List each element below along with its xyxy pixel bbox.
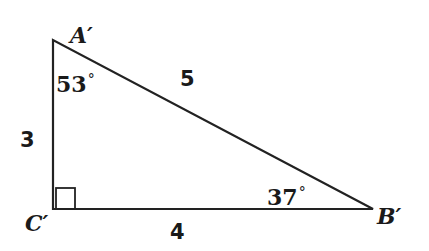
vertex-label-c: C′	[25, 212, 48, 234]
side-label-vertical: 3	[20, 130, 35, 151]
angle-a-value: 53	[56, 71, 87, 97]
degree-symbol: °	[299, 184, 306, 200]
triangle-svg	[0, 0, 429, 251]
angle-label-a: 53°	[56, 73, 95, 95]
side-label-hypotenuse: 5	[180, 69, 195, 90]
vertex-label-a: A′	[70, 24, 93, 46]
degree-symbol: °	[88, 71, 95, 87]
triangle-diagram: A′ C′ B′ 5 3 4 53° 37°	[0, 0, 429, 251]
triangle-outline	[53, 40, 373, 209]
side-label-base: 4	[170, 222, 185, 243]
vertex-label-b: B′	[377, 205, 401, 227]
angle-label-b: 37°	[267, 186, 306, 208]
angle-b-value: 37	[267, 184, 298, 210]
right-angle-marker	[56, 188, 75, 209]
